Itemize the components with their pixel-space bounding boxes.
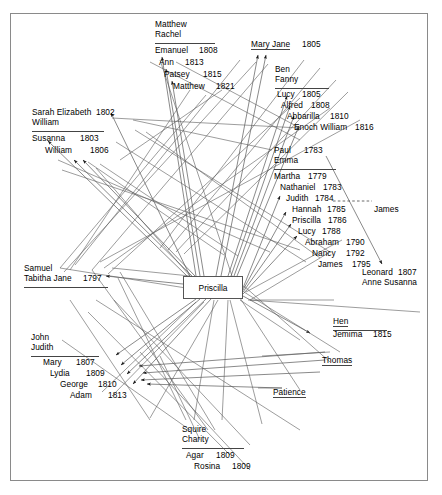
child-ann-year: 1813: [185, 58, 204, 68]
child-lydia: Lydia: [50, 369, 70, 379]
parent-william: William: [32, 118, 59, 128]
parent-judith: Judith: [31, 343, 53, 353]
child-matthew-year: 1821: [216, 82, 235, 92]
child-rosina-year: 1809: [232, 462, 251, 472]
child-susanna: Susanna: [32, 134, 65, 144]
child-priscilla-year: 1786: [328, 216, 347, 226]
child-nancy: Nancy: [312, 249, 336, 259]
child-priscilla: Priscilla: [292, 216, 321, 226]
center-node-label: Priscilla: [199, 283, 228, 293]
child-enoch-william: Enoch William: [294, 123, 347, 133]
child-adam: Adam: [70, 391, 92, 401]
child-jemima-year: 1815: [373, 330, 392, 340]
child-william-year: 1806: [90, 146, 109, 156]
child-emanuel-year: 1808: [199, 46, 218, 56]
parent-rachel: Rachel: [155, 30, 181, 40]
node-anne-susanna: Anne Susanna: [362, 278, 417, 288]
node-patience: Patience: [273, 388, 306, 398]
child-matthew: Matthew: [173, 82, 205, 92]
child-martha: Martha: [274, 172, 300, 182]
family-rule-squire-charity: [182, 448, 244, 449]
child-mary-year: 1807: [76, 358, 95, 368]
family-rule-samuel-tabitha: [24, 287, 108, 288]
node-mary-jane: Mary Jane: [251, 40, 290, 50]
child-william: William: [45, 146, 72, 156]
child-nathaniel-year: 1783: [323, 183, 342, 193]
child-ann: Ann: [159, 58, 174, 68]
child-emanuel: Emanuel: [155, 46, 188, 56]
child-alfred-year: 1808: [311, 101, 330, 111]
child-abbarilla-year: 1810: [330, 112, 349, 122]
node-thomas: Thomas: [322, 356, 352, 366]
child-patsey-year: 1815: [203, 70, 222, 80]
parent-emma: Emma: [274, 156, 298, 166]
child-abraham: Abraham: [305, 238, 339, 248]
child-george: George: [60, 380, 88, 390]
parent-fanny: Fanny: [275, 75, 298, 85]
child-abbarilla: Abbarilla: [287, 112, 320, 122]
parent-tabitha-jane-year: 1797: [83, 274, 102, 284]
center-node-priscilla[interactable]: Priscilla: [183, 276, 243, 299]
child-judith-year: 1784: [315, 194, 334, 204]
parent-paul-year: 1783: [304, 146, 323, 156]
child-james: James: [318, 260, 343, 270]
node-james-right: James: [374, 205, 399, 215]
family-rule-sarah-william: [32, 131, 104, 132]
child-agar: Agar: [186, 451, 204, 461]
child-lucy-1788-year: 1788: [322, 227, 341, 237]
parent-sarah-elizabeth-year: 1802: [96, 108, 115, 118]
child-nathaniel: Nathaniel: [280, 183, 316, 193]
child-hannah-year: 1785: [327, 205, 346, 215]
family-rule-paul-emma: [274, 169, 336, 170]
child-lucy-1788: Lucy: [298, 227, 316, 237]
child-enoch-william-year: 1816: [355, 123, 374, 133]
child-lucy-1805-year: 1805: [302, 90, 321, 100]
child-judith: Judith: [286, 194, 308, 204]
child-jemima: Jemima: [333, 330, 362, 340]
child-nancy-year: 1792: [346, 249, 365, 259]
child-george-year: 1810: [98, 380, 117, 390]
diagram-canvas: Matthew Rachel Emanuel 1808 Ann 1813 Pat…: [0, 0, 442, 495]
child-susanna-year: 1803: [80, 134, 99, 144]
node-mary-jane-year: 1805: [302, 40, 321, 50]
child-abraham-year: 1790: [346, 238, 365, 248]
child-rosina: Rosina: [194, 462, 220, 472]
child-agar-year: 1809: [216, 451, 235, 461]
parent-charity: Charity: [182, 435, 209, 445]
child-lydia-year: 1809: [86, 369, 105, 379]
child-martha-year: 1779: [308, 172, 327, 182]
child-adam-year: 1813: [108, 391, 127, 401]
child-lucy-1805: Lucy: [277, 90, 295, 100]
parent-tabitha-jane: Tabitha Jane: [24, 274, 72, 284]
parent-hen: Hen: [333, 317, 348, 327]
child-hannah: Hannah: [292, 205, 321, 215]
child-patsey: Patsey: [164, 70, 190, 80]
child-mary: Mary: [43, 358, 62, 368]
family-rule-matthew-rachel: [155, 43, 215, 44]
child-alfred: Alfred: [281, 101, 303, 111]
